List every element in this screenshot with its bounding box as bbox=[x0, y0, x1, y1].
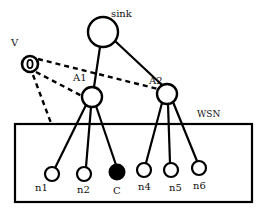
aggregator-a2-label: A2 bbox=[149, 76, 163, 86]
edge-a2-n4 bbox=[146, 103, 162, 163]
adversary-v-icon bbox=[22, 56, 38, 72]
adversary-v-label: V bbox=[11, 38, 18, 48]
sensor-n4-node bbox=[137, 163, 151, 177]
wsn-region-label: WSN bbox=[197, 110, 220, 119]
edge-a2-n6 bbox=[173, 102, 197, 161]
compromised-c-node bbox=[110, 165, 125, 180]
aggregator-a2-node bbox=[157, 84, 177, 104]
sensor-n2-node bbox=[77, 167, 91, 181]
sensor-n4-label: n4 bbox=[138, 182, 151, 192]
edge-sink-a1 bbox=[94, 47, 100, 87]
sensor-n2-label: n2 bbox=[77, 185, 90, 195]
sink-node bbox=[88, 17, 118, 47]
sensor-n5-label: n5 bbox=[169, 183, 182, 193]
edge-a1-n2 bbox=[86, 107, 91, 167]
edge-a1-n1 bbox=[55, 105, 86, 168]
solid-edges bbox=[55, 41, 197, 168]
aggregator-a1-label: A1 bbox=[73, 73, 87, 83]
edge-a2-n5 bbox=[168, 104, 170, 163]
sensor-n1-node bbox=[45, 167, 59, 181]
sensor-n1-label: n1 bbox=[35, 183, 48, 193]
aggregator-a1-node bbox=[82, 87, 102, 107]
edge-a1-c bbox=[96, 106, 116, 165]
diagram-canvas bbox=[0, 0, 263, 212]
edge-v-wsn bbox=[33, 75, 51, 123]
sensor-n6-node bbox=[192, 161, 206, 175]
wsn-attack-diagram: sink V A1 A2 WSN n1 n2 C n4 n5 n6 bbox=[0, 0, 263, 212]
sensor-n5-node bbox=[164, 163, 178, 177]
sink-label: sink bbox=[111, 9, 132, 19]
wsn-region-box bbox=[15, 124, 252, 202]
sensor-n6-label: n6 bbox=[193, 181, 206, 191]
compromised-c-label: C bbox=[113, 186, 121, 196]
